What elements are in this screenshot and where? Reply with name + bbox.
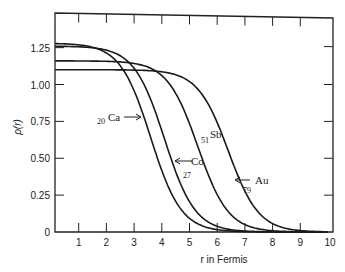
x-tick-label: 6 [214, 237, 220, 248]
label-au-mass-number: 79 [243, 186, 251, 195]
y-axis-title: ρ(r) [12, 119, 23, 136]
label-sb-symbol: Sb [210, 128, 222, 140]
x-tick-label: 10 [324, 237, 336, 248]
y-tick-label: 0.50 [31, 153, 51, 164]
x-axis: 12345678910 [76, 13, 336, 248]
y-tick-label: 0.75 [31, 116, 51, 127]
x-tick-label: 7 [242, 237, 248, 248]
y-tick-label: 1.25 [31, 43, 51, 54]
x-axis-title: r in Fermis [200, 254, 247, 265]
y-tick-label: 1.00 [31, 80, 51, 91]
x-tick-label: 3 [131, 237, 137, 248]
label-ca-mass-number: 20 [97, 117, 105, 126]
curve-au [55, 70, 328, 232]
density-curves [55, 44, 328, 232]
x-tick-label: 2 [104, 237, 110, 248]
x-tick-label: 5 [187, 237, 193, 248]
label-ca-symbol: Ca [108, 111, 120, 123]
x-tick-label: 4 [159, 237, 165, 248]
label-co-mass-number: 27 [183, 171, 191, 180]
y-tick-label: 0.25 [31, 190, 51, 201]
curve-co [55, 46, 328, 232]
fermi-density-chart: 00.250.500.751.001.25 12345678910 Ca20Co… [0, 0, 345, 272]
x-tick-label: 1 [76, 237, 82, 248]
x-tick-label: 8 [270, 237, 276, 248]
label-au-symbol: Au [255, 174, 269, 186]
label-co-symbol: Co [191, 155, 204, 167]
label-sb-mass-number: 51 [201, 136, 209, 145]
curve-labels: Ca20Co27Sb51Au79 [97, 111, 269, 195]
y-axis: 00.250.500.751.001.25 [31, 43, 333, 238]
x-tick-label: 9 [298, 237, 304, 248]
y-tick-label: 0 [44, 227, 50, 238]
